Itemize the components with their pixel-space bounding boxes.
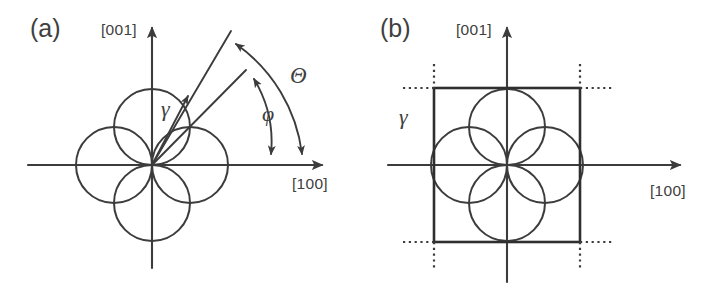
- panel-b-axis-label-100: [100]: [650, 183, 686, 199]
- panel-a-theta-label: Θ: [290, 64, 307, 87]
- figure-root: (a) [001] [100] γ φ Θ (b) [001] [100] γ: [0, 0, 719, 300]
- panel-a-label: (a): [30, 16, 61, 41]
- panel-b-axis-label-001: [001]: [456, 22, 492, 38]
- panel-b-label: (b): [380, 16, 411, 41]
- panel-a-axis-label-001: [001]: [101, 22, 137, 38]
- panel-a-gamma-label: γ: [161, 98, 170, 120]
- panel-b-graphics: [0, 0, 719, 300]
- panel-a-axis-label-100: [100]: [292, 176, 328, 192]
- panel-a-phi-label: φ: [262, 103, 274, 125]
- panel-b-gamma-label: γ: [399, 106, 408, 128]
